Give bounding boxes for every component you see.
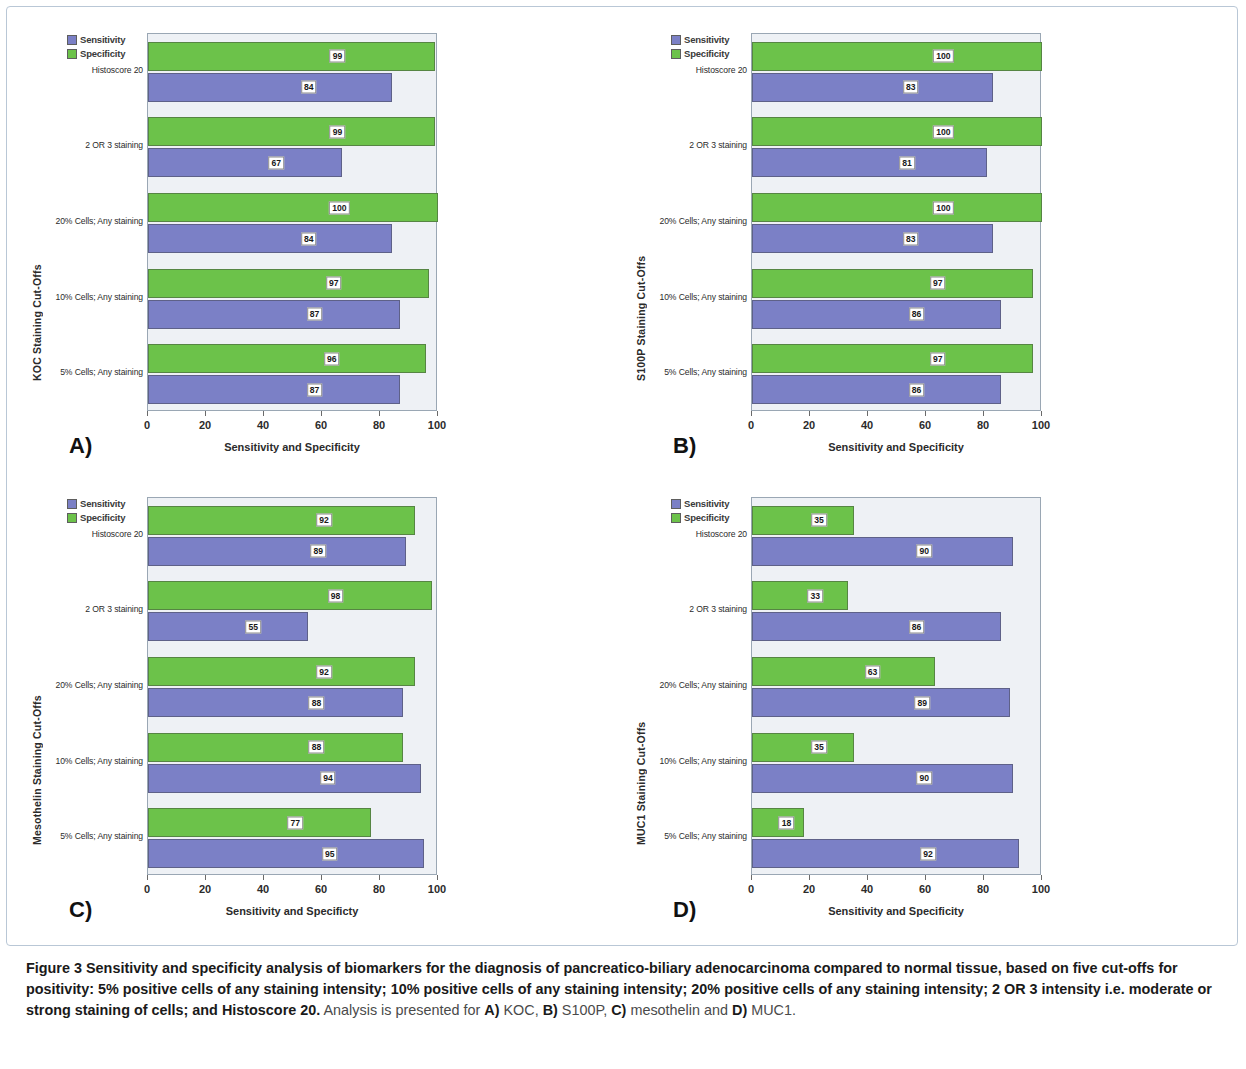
bar-value-label: 100 bbox=[933, 201, 953, 214]
x-axis-tick-label: 60 bbox=[315, 419, 327, 431]
bar-specificity bbox=[752, 269, 1033, 298]
bar-value-label: 96 bbox=[324, 352, 340, 365]
legend-label-specificity: Specificity bbox=[80, 512, 125, 523]
caption-tail-prefix: Analysis is presented for bbox=[324, 1002, 485, 1018]
legend-swatch-specificity-icon bbox=[671, 49, 681, 59]
bar-value-label: 86 bbox=[909, 383, 925, 396]
figure-frame: SensitivitySpecificityKOC Staining Cut-O… bbox=[6, 6, 1238, 946]
x-axis-tick bbox=[321, 875, 322, 880]
x-axis-tick bbox=[437, 411, 438, 416]
bar-sensitivity bbox=[148, 224, 392, 253]
panel-d: SensitivitySpecificityMUC1 Staining Cut-… bbox=[619, 475, 1223, 943]
x-axis-tick-label: 40 bbox=[861, 419, 873, 431]
x-axis-tick-label: 0 bbox=[748, 419, 754, 431]
bar-value-label: 97 bbox=[930, 352, 946, 365]
chart-legend: SensitivitySpecificity bbox=[671, 497, 729, 525]
x-axis-tick-label: 20 bbox=[199, 883, 211, 895]
category-label: 2 OR 3 staining bbox=[629, 604, 747, 614]
bar-sensitivity bbox=[148, 764, 421, 793]
caption-tail-c-letter: C) bbox=[611, 1002, 626, 1018]
bar-sensitivity bbox=[752, 148, 987, 177]
bar-value-label: 89 bbox=[311, 545, 327, 558]
category-label: 10% Cells; Any staining bbox=[629, 756, 747, 766]
bar-value-label: 86 bbox=[909, 620, 925, 633]
bar-specificity bbox=[752, 193, 1042, 222]
x-axis-tick bbox=[867, 875, 868, 880]
figure-caption: Figure 3 Sensitivity and specificity ana… bbox=[26, 958, 1222, 1021]
bar-specificity bbox=[148, 581, 432, 610]
bar-value-label: 81 bbox=[899, 156, 915, 169]
bar-value-label: 98 bbox=[328, 589, 344, 602]
bar-value-label: 83 bbox=[903, 81, 919, 94]
panel-c: SensitivitySpecificityMesothelin Stainin… bbox=[15, 475, 619, 943]
x-axis-tick-label: 80 bbox=[977, 883, 989, 895]
category-label: Histoscore 20 bbox=[629, 65, 747, 75]
bar-sensitivity bbox=[148, 148, 342, 177]
bar-value-label: 100 bbox=[329, 201, 349, 214]
plot-area: 92899855928888947795 bbox=[147, 497, 437, 875]
x-axis-tick bbox=[983, 875, 984, 880]
x-axis-tick-label: 0 bbox=[144, 419, 150, 431]
chart-legend: SensitivitySpecificity bbox=[67, 497, 125, 525]
panel-a: SensitivitySpecificityKOC Staining Cut-O… bbox=[15, 11, 619, 479]
category-label: 5% Cells; Any staining bbox=[25, 831, 143, 841]
x-axis-tick bbox=[437, 875, 438, 880]
legend-label-sensitivity: Sensitivity bbox=[80, 34, 125, 45]
bar-sensitivity bbox=[752, 764, 1013, 793]
legend-item-specificity: Specificity bbox=[67, 511, 125, 524]
bar-specificity bbox=[752, 506, 854, 535]
legend-swatch-sensitivity-icon bbox=[671, 499, 681, 509]
bar-sensitivity bbox=[148, 612, 308, 641]
category-label: 5% Cells; Any staining bbox=[629, 831, 747, 841]
x-axis-tick-label: 20 bbox=[199, 419, 211, 431]
bar-value-label: 84 bbox=[301, 232, 317, 245]
x-axis-title: Sensitivity and Specificity bbox=[751, 441, 1041, 453]
y-axis-title: MUC1 Staining Cut-Offs bbox=[635, 537, 647, 845]
x-axis-tick bbox=[1041, 411, 1042, 416]
x-axis-tick-label: 100 bbox=[428, 883, 446, 895]
caption-tail-b-name: S100P, bbox=[558, 1002, 611, 1018]
x-axis-tick-label: 80 bbox=[373, 883, 385, 895]
bar-value-label: 89 bbox=[915, 696, 931, 709]
category-label: 5% Cells; Any staining bbox=[25, 367, 143, 377]
legend-item-sensitivity: Sensitivity bbox=[67, 497, 125, 510]
legend-swatch-specificity-icon bbox=[67, 49, 77, 59]
category-label: 20% Cells; Any staining bbox=[25, 216, 143, 226]
x-axis-tick bbox=[147, 411, 148, 416]
x-axis-tick bbox=[205, 875, 206, 880]
category-label: 10% Cells; Any staining bbox=[25, 756, 143, 766]
bar-value-label: 33 bbox=[807, 589, 823, 602]
caption-tail-a-name: KOC, bbox=[499, 1002, 542, 1018]
bar-value-label: 86 bbox=[909, 308, 925, 321]
bar-value-label: 83 bbox=[903, 232, 919, 245]
bar-specificity bbox=[148, 193, 438, 222]
bar-value-label: 90 bbox=[916, 772, 932, 785]
x-axis-tick-label: 40 bbox=[257, 883, 269, 895]
x-axis-title: Sensitivity and Specificity bbox=[147, 441, 437, 453]
x-axis-tick-label: 100 bbox=[428, 419, 446, 431]
legend-label-sensitivity: Sensitivity bbox=[684, 34, 729, 45]
bar-specificity bbox=[148, 506, 415, 535]
category-label: Histoscore 20 bbox=[25, 65, 143, 75]
bar-value-label: 87 bbox=[307, 383, 323, 396]
legend-label-specificity: Specificity bbox=[684, 48, 729, 59]
bar-value-label: 100 bbox=[933, 50, 953, 63]
bar-value-label: 88 bbox=[309, 741, 325, 754]
caption-tail-a-letter: A) bbox=[484, 1002, 499, 1018]
x-axis-tick bbox=[983, 411, 984, 416]
bar-specificity bbox=[148, 657, 415, 686]
bar-sensitivity bbox=[752, 73, 993, 102]
panel-letter-a: A) bbox=[69, 433, 92, 459]
bar-value-label: 87 bbox=[307, 308, 323, 321]
x-axis-tick-label: 60 bbox=[315, 883, 327, 895]
bar-sensitivity bbox=[752, 537, 1013, 566]
bar-sensitivity bbox=[148, 73, 392, 102]
bar-sensitivity bbox=[752, 612, 1001, 641]
bar-value-label: 100 bbox=[933, 125, 953, 138]
bar-sensitivity bbox=[752, 688, 1010, 717]
bar-sensitivity bbox=[752, 839, 1019, 868]
y-axis-title: Mesothelin Staining Cut-Offs bbox=[31, 537, 43, 845]
category-label: 20% Cells; Any staining bbox=[25, 680, 143, 690]
plot-area: 998499671008497879687 bbox=[147, 33, 437, 411]
x-axis-tick bbox=[925, 411, 926, 416]
